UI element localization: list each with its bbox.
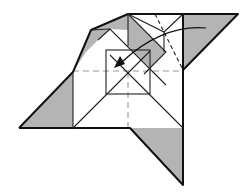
origami-diagram	[0, 0, 251, 194]
arrow-head-icon	[114, 56, 125, 68]
diagonal-gray-strip	[128, 14, 166, 68]
valley-fold-line	[155, 14, 183, 70]
diagonal-left-up	[73, 51, 150, 128]
